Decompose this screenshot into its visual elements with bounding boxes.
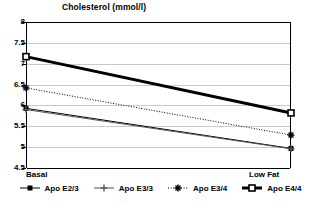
legend-swatch-icon: [241, 183, 263, 193]
y-axis-tick-mark: [22, 147, 26, 148]
gridline: [27, 147, 290, 148]
legend-label: Apo E3/3: [119, 184, 153, 193]
chart-title: Cholesterol (mmol/l): [62, 2, 146, 12]
y-axis-tick-mark: [22, 64, 26, 65]
gridline: [27, 64, 290, 65]
legend-label: Apo E3/4: [193, 184, 227, 193]
legend-item[interactable]: Apo E3/4: [167, 183, 227, 193]
x-axis-tick-label-low-fat: Low Fat: [249, 170, 279, 179]
chart-legend: Apo E2/3Apo E3/3Apo E3/4Apo E4/4: [0, 183, 320, 193]
gridline: [27, 105, 290, 106]
legend-swatch-icon: [167, 183, 189, 193]
plot-area: [26, 22, 291, 168]
legend-label: Apo E4/4: [267, 184, 301, 193]
data-point-marker: [249, 185, 255, 191]
legend-item[interactable]: Apo E4/4: [241, 183, 301, 193]
y-axis-tick-mark: [22, 105, 26, 106]
legend-item[interactable]: Apo E2/3: [19, 183, 79, 193]
legend-swatch-icon: [19, 183, 41, 193]
y-axis-tick-mark: [22, 85, 26, 86]
x-axis-tick-label-basal: Basal: [26, 170, 47, 179]
gridline: [27, 126, 290, 127]
data-point-marker: [28, 186, 32, 190]
gridline: [27, 43, 290, 44]
gridline: [27, 85, 290, 86]
legend-item[interactable]: Apo E3/3: [93, 183, 153, 193]
chart-figure: Cholesterol (mmol/l) 87.576.565.554.5 Ba…: [0, 0, 320, 204]
y-axis-tick-mark: [22, 168, 26, 169]
y-axis-tick-mark: [22, 22, 26, 23]
data-point-marker: [175, 185, 182, 192]
y-axis-tick-mark: [22, 126, 26, 127]
gridline: [27, 22, 290, 23]
legend-swatch-icon: [93, 183, 115, 193]
legend-label: Apo E2/3: [45, 184, 79, 193]
y-axis-tick-mark: [22, 43, 26, 44]
data-point-marker: [100, 185, 107, 192]
gridline: [27, 168, 290, 169]
